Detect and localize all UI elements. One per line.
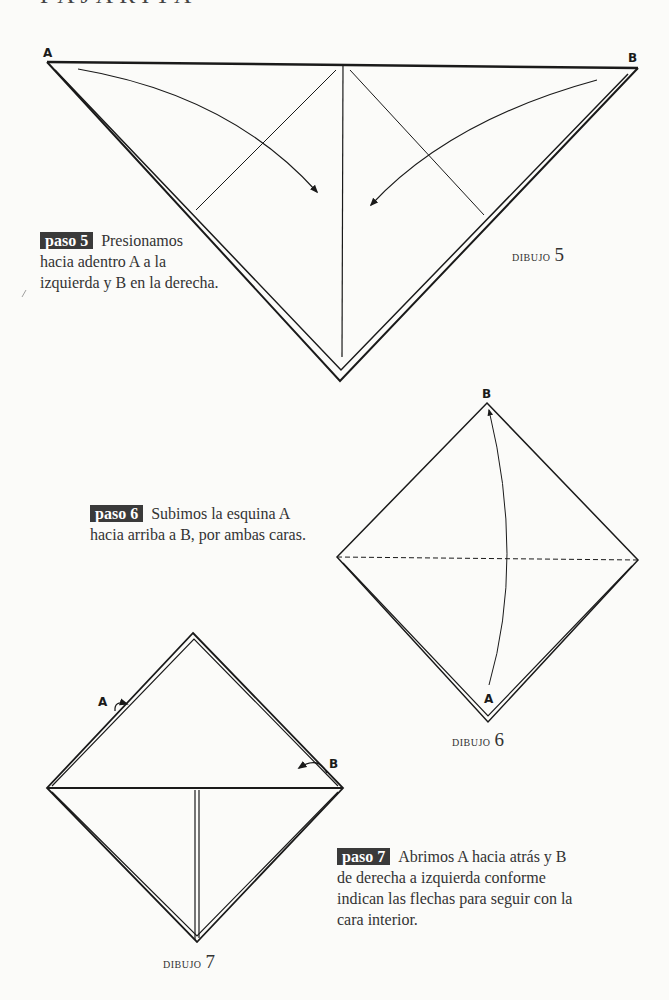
caption-drawing-5: dibujo 5	[512, 244, 565, 266]
step-6-instructions: paso 6Subimos la esquina A hacia arriba …	[90, 503, 340, 545]
label-a-drawing-5: A	[43, 46, 52, 60]
step-text-line: de derecha a izquierda conforme	[337, 867, 637, 888]
step-text-line: indican las flechas para seguir con la	[337, 888, 637, 909]
open-arrow-b	[299, 763, 327, 773]
label-b-drawing-5: B	[628, 51, 637, 65]
step-text-line: izquierda y B en la derecha.	[40, 272, 270, 293]
caption-word: dibujo	[512, 249, 551, 264]
fold-arrow-up	[489, 410, 507, 685]
caption-number: 7	[206, 951, 216, 972]
caption-number: 6	[495, 729, 505, 750]
step-text-line: hacia arriba a B, por ambas caras.	[90, 524, 340, 545]
label-a-drawing-6: A	[484, 692, 493, 706]
label-a-drawing-7: A	[98, 695, 107, 709]
step-5-instructions: paso 5Presionamos hacia adentro A a la i…	[40, 230, 270, 293]
drawing-7	[47, 633, 343, 942]
fold-arrow-left	[78, 69, 317, 192]
drawing-5	[47, 62, 638, 381]
step-text-line: cara interior.	[337, 909, 637, 930]
caption-number: 5	[555, 244, 565, 265]
step-text-line: Presionamos	[101, 232, 183, 249]
scan-artifact	[22, 290, 26, 297]
caption-drawing-6: dibujo 6	[452, 729, 505, 751]
label-b-drawing-6: B	[482, 387, 491, 401]
caption-drawing-7: dibujo 7	[163, 951, 216, 973]
step-text-line: Abrimos A hacia atrás y B	[398, 848, 566, 865]
step-badge: paso 6	[90, 505, 143, 522]
caption-word: dibujo	[163, 956, 202, 971]
step-text-line: hacia adentro A a la	[40, 251, 270, 272]
drawing-6	[337, 403, 638, 722]
step-text-line: Subimos la esquina A	[151, 505, 290, 522]
step-badge: paso 5	[40, 232, 93, 249]
step-7-instructions: paso 7Abrimos A hacia atrás y B de derec…	[337, 846, 637, 930]
label-b-drawing-7: B	[329, 757, 338, 771]
caption-word: dibujo	[452, 734, 491, 749]
fold-arrow-right	[371, 80, 597, 205]
step-badge: paso 7	[337, 848, 390, 865]
